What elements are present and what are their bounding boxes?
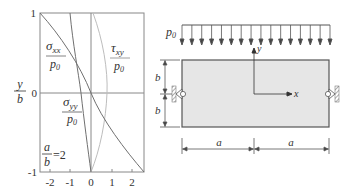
dimension-a	[182, 138, 329, 154]
x-tick-label: 0	[88, 176, 94, 188]
plate	[182, 60, 329, 127]
load-arrowhead-icon	[200, 39, 204, 45]
figure: -2 -1 0 1 2 1 0 -1 y b σxx p0 τxy p0 σyy…	[0, 0, 354, 195]
y-tick-mid: 0	[32, 87, 38, 99]
dim-b-top: b	[155, 71, 161, 83]
svg-text:p0: p0	[49, 57, 60, 72]
svg-text:p0: p0	[66, 112, 77, 127]
ratio-annotation: a b =2	[42, 140, 66, 169]
dim-b-bottom: b	[155, 104, 161, 116]
y-tick-top: 1	[31, 7, 37, 19]
svg-text:σxx: σxx	[46, 38, 60, 55]
distributed-load	[180, 25, 332, 45]
load-arrowhead-icon	[229, 39, 233, 45]
x-tick-label: -1	[65, 176, 74, 188]
svg-text:p0: p0	[113, 59, 124, 74]
label-sigma-xx: σxx p0	[46, 38, 66, 72]
load-arrowhead-icon	[298, 39, 302, 45]
y-axis-label-num: y	[16, 77, 23, 91]
load-label: p0	[165, 25, 176, 40]
load-arrowhead-icon	[269, 39, 273, 45]
svg-text:b: b	[44, 155, 50, 169]
svg-text:a: a	[44, 140, 50, 154]
load-arrowhead-icon	[190, 39, 194, 45]
svg-text:τxy: τxy	[111, 40, 124, 57]
load-arrowhead-icon	[239, 39, 243, 45]
y-axis-label-den: b	[17, 92, 23, 106]
svg-text:=2: =2	[53, 148, 66, 162]
x-tick-label: 1	[109, 176, 115, 188]
stress-chart: -2 -1 0 1 2 1 0 -1 y b σxx p0 τxy p0 σyy…	[14, 7, 144, 188]
load-arrowhead-icon	[318, 39, 322, 45]
load-arrowhead-icon	[219, 39, 223, 45]
load-arrowhead-icon	[289, 39, 293, 45]
load-arrowhead-icon	[180, 39, 184, 45]
plate-diagram: p0 y x	[155, 25, 339, 154]
load-arrowhead-icon	[308, 39, 312, 45]
load-arrowhead-icon	[328, 39, 332, 45]
dim-a-left: a	[216, 136, 222, 148]
load-arrowhead-icon	[210, 39, 214, 45]
y-tick-bottom: -1	[28, 166, 37, 178]
x-tick-label: 2	[129, 176, 135, 188]
x-tick-label: -2	[45, 176, 54, 188]
dim-a-right: a	[288, 136, 294, 148]
label-tau-xy: τxy p0	[110, 40, 130, 74]
load-arrowhead-icon	[279, 39, 283, 45]
label-sigma-yy: σyy p0	[62, 94, 82, 127]
axis-x-label: x	[293, 88, 299, 99]
svg-text:σyy: σyy	[63, 94, 77, 111]
axis-y-label: y	[256, 43, 262, 54]
load-arrowhead-icon	[249, 39, 253, 45]
